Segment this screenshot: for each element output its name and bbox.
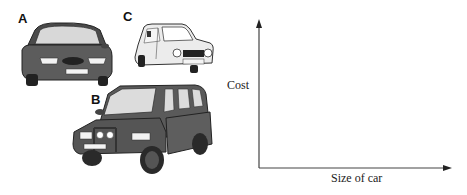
car-b-label: B [91,92,100,107]
y-axis-label: Cost [227,78,249,93]
x-axis-label: Size of car [331,171,382,186]
car-c-figure [130,15,215,75]
car-c-icon [130,15,215,75]
y-axis-arrow-icon [256,19,262,28]
car-a-label: A [18,11,27,26]
car-c-label: C [123,9,132,24]
x-axis-arrow-icon [443,165,452,171]
